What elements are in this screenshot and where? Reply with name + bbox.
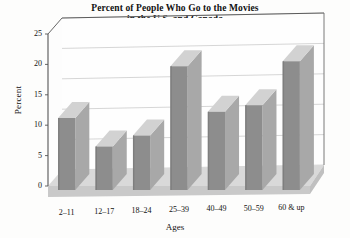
bar-side-3	[188, 50, 202, 190]
bar-front-3	[170, 66, 187, 190]
chart-page: Percent of People Who Go to the Movies i…	[0, 0, 350, 238]
y-tick-label-25: 25	[20, 29, 42, 38]
bar-chart: Percent Ages 05101520252–1112–1718–2425–…	[0, 0, 350, 238]
bar-side-6	[300, 45, 314, 190]
bar-front-edge-2	[133, 136, 134, 190]
bar-side-4	[225, 96, 239, 190]
bar-front-edge-5	[245, 105, 246, 190]
bar-front-edge-0	[58, 118, 59, 190]
bar-front-edge-4	[208, 112, 209, 190]
bar-front-0	[58, 118, 75, 190]
y-tick-label-5: 5	[20, 151, 42, 160]
bar-front-1	[96, 146, 113, 190]
y-tick-label-15: 15	[20, 90, 42, 99]
y-tick-label-10: 10	[20, 120, 42, 129]
wall-top-edge	[62, 13, 324, 18]
y-tick-label-20: 20	[20, 59, 42, 68]
bar-front-6	[283, 61, 300, 190]
x-tick-label-6: 60 & up	[265, 203, 317, 212]
x-axis-title: Ages	[0, 222, 350, 232]
bar-front-4	[208, 112, 225, 190]
bar-front-2	[133, 136, 150, 190]
bar-side-5	[262, 89, 276, 190]
bar-front-5	[245, 105, 262, 190]
bar-front-edge-1	[96, 146, 97, 190]
y-tick-label-0: 0	[20, 181, 42, 190]
bar-front-edge-6	[283, 61, 284, 190]
bar-front-edge-3	[170, 66, 171, 190]
